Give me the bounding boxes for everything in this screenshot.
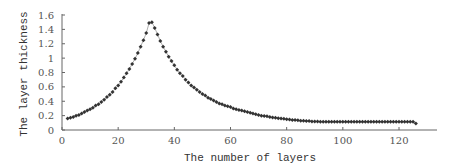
data-point-marker bbox=[248, 111, 252, 115]
data-point-marker bbox=[167, 55, 171, 59]
x-tick-label: 20 bbox=[112, 135, 125, 146]
data-point-marker bbox=[141, 38, 145, 42]
y-tick-label: 1.2 bbox=[38, 38, 54, 49]
data-point-marker bbox=[127, 67, 131, 71]
y-tick-label: 0.6 bbox=[38, 81, 54, 92]
y-tick-label: 1.4 bbox=[38, 24, 54, 35]
x-tick-label: 40 bbox=[168, 135, 181, 146]
data-point-marker bbox=[243, 109, 247, 113]
x-axis-label: The number of layers bbox=[184, 152, 316, 164]
x-tick-label: 120 bbox=[389, 135, 408, 146]
data-point-marker bbox=[125, 71, 129, 75]
data-point-marker bbox=[237, 108, 241, 112]
data-points bbox=[66, 20, 418, 125]
y-tick-label: 1 bbox=[48, 53, 54, 64]
data-point-marker bbox=[172, 63, 176, 67]
x-tick-label: 100 bbox=[333, 135, 352, 146]
data-point-marker bbox=[133, 57, 137, 61]
data-point-marker bbox=[265, 114, 269, 118]
data-point-marker bbox=[164, 50, 168, 54]
chart: 00.20.40.60.811.21.41.6 020406080100120 … bbox=[0, 0, 458, 166]
y-tick-label: 0.8 bbox=[38, 67, 54, 78]
y-axis-ticks: 00.20.40.60.811.21.41.6 bbox=[38, 10, 65, 136]
data-point-marker bbox=[153, 26, 157, 30]
data-point-marker bbox=[136, 51, 140, 55]
data-point-marker bbox=[139, 45, 143, 49]
data-point-marker bbox=[234, 107, 238, 111]
data-point-marker bbox=[144, 31, 148, 35]
data-point-marker bbox=[122, 76, 126, 80]
data-point-marker bbox=[155, 32, 159, 36]
data-point-marker bbox=[68, 116, 72, 120]
data-point-marker bbox=[254, 112, 258, 116]
data-point-marker bbox=[147, 21, 151, 25]
data-point-marker bbox=[251, 111, 255, 115]
data-point-marker bbox=[240, 109, 244, 113]
x-tick-label: 0 bbox=[59, 135, 65, 146]
data-point-marker bbox=[130, 62, 134, 66]
y-tick-label: 0.4 bbox=[38, 96, 54, 107]
data-point-marker bbox=[66, 117, 70, 121]
x-tick-label: 80 bbox=[280, 135, 293, 146]
data-point-marker bbox=[161, 45, 165, 49]
data-point-marker bbox=[245, 110, 249, 114]
y-axis-label: The layer thickness bbox=[18, 11, 30, 136]
data-point-marker bbox=[158, 39, 162, 43]
x-tick-label: 60 bbox=[224, 135, 237, 146]
y-tick-label: 0.2 bbox=[38, 110, 54, 121]
data-point-marker bbox=[226, 104, 230, 108]
data-point-marker bbox=[150, 20, 154, 24]
data-point-marker bbox=[170, 59, 174, 63]
y-tick-label: 0 bbox=[48, 125, 54, 136]
y-tick-label: 1.6 bbox=[38, 10, 54, 21]
data-point-marker bbox=[257, 113, 261, 117]
